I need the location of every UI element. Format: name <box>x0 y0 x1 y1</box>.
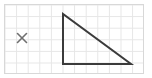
figure-svg <box>0 0 152 78</box>
geometry-canvas <box>0 0 152 78</box>
